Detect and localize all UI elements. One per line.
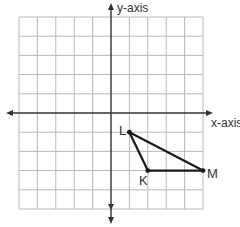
- coordinate-plane: [0, 0, 240, 227]
- x-axis-label: x-axis: [211, 117, 240, 129]
- y-axis-up-arrow-icon: [108, 3, 114, 10]
- point-l-label: L: [119, 124, 126, 137]
- point-m-label: M: [207, 167, 218, 180]
- point-l: [127, 130, 132, 135]
- y-axis-down-arrow-icon: [108, 217, 114, 224]
- point-k-label: K: [139, 174, 148, 187]
- y-axis-label: y-axis: [117, 2, 148, 14]
- point-m: [201, 168, 206, 173]
- x-axis-left-arrow-icon: [6, 110, 13, 116]
